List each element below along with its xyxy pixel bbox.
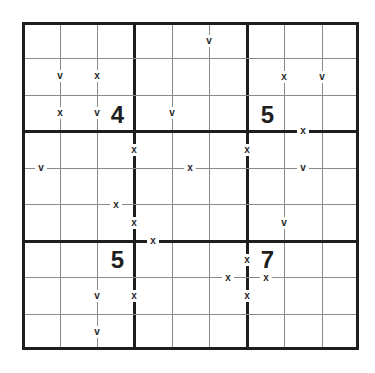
xv-marker: x	[128, 217, 140, 229]
xv-marker: x	[184, 162, 196, 174]
xv-marker: x	[260, 272, 272, 284]
grid-line	[25, 58, 356, 59]
box-divider	[25, 240, 356, 243]
xv-marker: v	[91, 326, 103, 338]
grid-line	[25, 277, 356, 278]
xv-marker: v	[316, 71, 328, 83]
grid-line	[25, 204, 356, 205]
grid-line	[209, 25, 210, 347]
sudoku-board	[22, 22, 359, 350]
xv-marker: x	[91, 70, 103, 82]
xv-marker: x	[278, 71, 290, 83]
xv-marker: x	[147, 235, 159, 247]
xv-marker: v	[91, 107, 103, 119]
xv-marker: x	[222, 272, 234, 284]
xv-marker: v	[203, 35, 215, 47]
xv-marker: x	[297, 125, 309, 137]
xv-marker: v	[297, 162, 309, 174]
xv-marker: v	[166, 107, 178, 119]
xv-marker: x	[241, 144, 253, 156]
xv-marker: v	[278, 217, 290, 229]
xv-marker: x	[110, 199, 122, 211]
grid-line	[25, 314, 356, 315]
xv-marker: x	[241, 254, 253, 266]
given-digit-r3c7: 5	[247, 97, 284, 133]
xv-marker: v	[91, 290, 103, 302]
xv-marker: x	[54, 107, 66, 119]
given-digit-r7c3: 5	[97, 242, 134, 278]
xv-marker: x	[241, 290, 253, 302]
xv-marker: v	[54, 70, 66, 82]
grid-line	[25, 95, 356, 96]
xv-marker: x	[128, 290, 140, 302]
grid-line	[172, 25, 173, 347]
xv-marker: x	[128, 144, 140, 156]
xv-marker: v	[35, 162, 47, 174]
